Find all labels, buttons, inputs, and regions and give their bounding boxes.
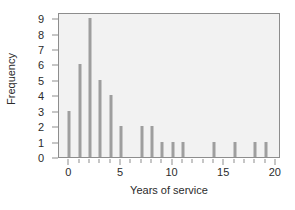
histogram-bar: [119, 126, 122, 157]
histogram-bar: [254, 142, 257, 157]
histogram-bar: [150, 126, 153, 157]
x-axis-minor-tick-mark: [150, 159, 151, 163]
x-axis-tick-labels: 05101520: [58, 166, 280, 182]
y-axis-title-text: Frequency: [5, 53, 17, 105]
y-axis-tick-label: 2: [38, 121, 44, 133]
x-axis-tick-marks: [58, 159, 280, 165]
y-axis-tick-label: 3: [38, 106, 44, 118]
x-axis-tick-label: 20: [269, 166, 281, 178]
x-axis-minor-tick-mark: [243, 159, 244, 163]
x-axis-minor-tick-mark: [78, 159, 79, 163]
x-axis-minor-tick-mark: [130, 159, 131, 163]
x-axis-tick-label: 5: [117, 166, 123, 178]
histogram-bar: [161, 142, 164, 157]
histogram-bar: [140, 126, 143, 157]
y-axis-tick-label: 4: [38, 90, 44, 102]
histogram-bar: [99, 80, 102, 157]
y-axis-tick-label: 1: [38, 137, 44, 149]
x-axis-major-tick-mark: [274, 159, 275, 165]
x-axis-tick-label: 10: [165, 166, 177, 178]
histogram-bar: [68, 111, 71, 157]
x-axis-minor-tick-mark: [264, 159, 265, 163]
histogram-bar: [181, 142, 184, 157]
histogram-bar: [233, 142, 236, 157]
x-axis-minor-tick-mark: [181, 159, 182, 163]
x-axis-minor-tick-mark: [109, 159, 110, 163]
x-axis-title: Years of service: [58, 184, 280, 196]
histogram-bar: [212, 142, 215, 157]
x-axis-minor-tick-mark: [233, 159, 234, 163]
y-axis-tick-label: 6: [38, 59, 44, 71]
histogram-bar: [264, 142, 267, 157]
y-axis-tick-label: 5: [38, 75, 44, 87]
y-axis-tick-label: 0: [38, 152, 44, 164]
y-axis-tick-label: 8: [38, 29, 44, 41]
histogram-bar: [78, 64, 81, 157]
x-axis-minor-tick-mark: [140, 159, 141, 163]
x-axis-minor-tick-mark: [99, 159, 100, 163]
x-axis-major-tick-mark: [171, 159, 172, 165]
y-axis-tick-labels: 0123456789: [22, 13, 48, 158]
y-axis-title: Frequency: [0, 0, 22, 158]
x-axis-minor-tick-mark: [192, 159, 193, 163]
x-axis-minor-tick-mark: [202, 159, 203, 163]
y-axis-tick-label: 7: [38, 44, 44, 56]
histogram-bar: [171, 142, 174, 157]
histogram-bar: [88, 18, 91, 157]
x-axis-tick-label: 0: [65, 166, 71, 178]
x-axis-major-tick-mark: [223, 159, 224, 165]
x-axis-tick-label: 15: [217, 166, 229, 178]
x-axis-minor-tick-mark: [161, 159, 162, 163]
x-axis-minor-tick-mark: [254, 159, 255, 163]
histogram-figure: Frequency 0123456789 05101520 Years of s…: [0, 0, 295, 210]
plot-area: [58, 13, 280, 158]
y-axis-tick-label: 9: [38, 13, 44, 25]
histogram-bar: [109, 95, 112, 157]
x-axis-minor-tick-mark: [212, 159, 213, 163]
x-axis-major-tick-mark: [119, 159, 120, 165]
x-axis-minor-tick-mark: [88, 159, 89, 163]
x-axis-major-tick-mark: [68, 159, 69, 165]
